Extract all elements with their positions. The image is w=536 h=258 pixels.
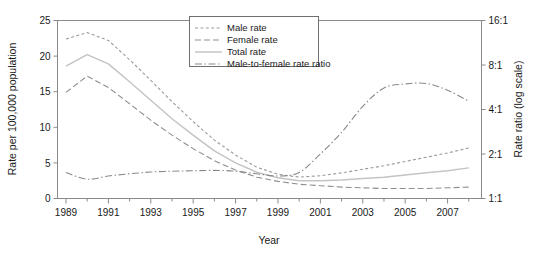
series-line-2 [66, 55, 469, 181]
y-right-tick-label: 8:1 [489, 60, 503, 71]
y-axis-right-title: Rate ratio (log scale) [512, 61, 524, 158]
y-left-tick-label: 20 [39, 51, 51, 62]
series-line-3 [66, 83, 469, 179]
legend-label-2: Total rate [227, 46, 266, 57]
x-tick-label: 1993 [140, 207, 163, 218]
y-right-tick-label: 16:1 [489, 15, 509, 26]
y-left-tick-label: 5 [45, 158, 51, 169]
x-tick-label: 2005 [394, 207, 417, 218]
chart-legend: Male rateFemale rateTotal rateMale-to-fe… [190, 17, 331, 70]
x-tick-label: 2001 [309, 207, 332, 218]
x-tick-label: 1991 [97, 207, 120, 218]
y-left-tick-label: 25 [39, 15, 51, 26]
y-axis-left-title: Rate per 100,000 population [6, 43, 18, 176]
legend-label-1: Female rate [227, 34, 278, 45]
x-tick-label: 2007 [436, 207, 459, 218]
y-right-tick-label: 4:1 [489, 104, 503, 115]
y-left-tick-label: 15 [39, 86, 51, 97]
x-tick-label: 1997 [224, 207, 247, 218]
x-axis-title: Year [258, 234, 280, 246]
y-left-tick-label: 0 [45, 193, 51, 204]
y-right-tick-label: 1:1 [489, 193, 503, 204]
series-line-1 [66, 76, 469, 188]
y-left-tick-label: 10 [39, 122, 51, 133]
y-axis-right-ticks: 1:12:14:18:116:1 [482, 15, 509, 204]
chart-figure: 0510152025 1:12:14:18:116:1 198919911993… [0, 0, 536, 258]
x-tick-label: 2003 [352, 207, 375, 218]
legend-label-0: Male rate [227, 22, 267, 33]
x-tick-label: 1999 [267, 207, 290, 218]
legend-label-3: Male-to-female rate ratio [227, 58, 330, 69]
x-tick-label: 1995 [182, 207, 205, 218]
y-right-tick-label: 2:1 [489, 149, 503, 160]
y-axis-left-ticks: 0510152025 [39, 15, 57, 204]
x-axis-ticks: 1989199119931995199719992001200320052007 [55, 199, 469, 218]
x-tick-label: 1989 [55, 207, 78, 218]
line-chart-svg: 0510152025 1:12:14:18:116:1 198919911993… [0, 0, 536, 258]
